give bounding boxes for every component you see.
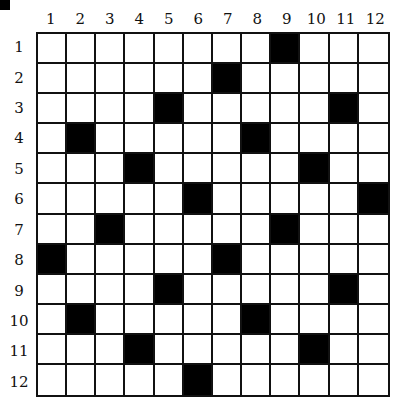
grid-cell[interactable] — [300, 275, 329, 305]
grid-cell[interactable] — [96, 64, 125, 94]
grid-cell[interactable] — [330, 64, 359, 94]
grid-cell[interactable] — [213, 184, 242, 214]
grid-cell[interactable] — [67, 335, 96, 365]
grid-cell[interactable] — [67, 184, 96, 214]
grid-cell[interactable] — [184, 305, 213, 335]
grid-cell[interactable] — [330, 335, 359, 365]
grid-cell[interactable] — [300, 94, 329, 124]
grid-cell[interactable] — [184, 154, 213, 184]
grid-cell[interactable] — [155, 365, 184, 395]
grid-cell[interactable] — [125, 64, 154, 94]
grid-cell[interactable] — [330, 365, 359, 395]
grid-cell[interactable] — [300, 34, 329, 64]
grid-cell[interactable] — [96, 365, 125, 395]
grid-cell[interactable] — [213, 154, 242, 184]
grid-cell[interactable] — [242, 335, 271, 365]
grid-cell[interactable] — [330, 34, 359, 64]
grid-cell[interactable] — [155, 64, 184, 94]
grid-cell[interactable] — [213, 94, 242, 124]
grid-cell[interactable] — [300, 215, 329, 245]
grid-cell[interactable] — [38, 275, 67, 305]
grid-cell[interactable] — [184, 124, 213, 154]
grid-cell[interactable] — [300, 184, 329, 214]
grid-cell[interactable] — [67, 365, 96, 395]
grid-cell[interactable] — [330, 305, 359, 335]
grid-cell[interactable] — [359, 34, 388, 64]
grid-cell[interactable] — [184, 94, 213, 124]
grid-cell[interactable] — [242, 215, 271, 245]
grid-cell[interactable] — [125, 365, 154, 395]
grid-cell[interactable] — [125, 215, 154, 245]
grid-cell[interactable] — [271, 64, 300, 94]
grid-cell[interactable] — [67, 215, 96, 245]
grid-cell[interactable] — [67, 34, 96, 64]
grid-cell[interactable] — [125, 94, 154, 124]
grid-cell[interactable] — [125, 34, 154, 64]
grid-cell[interactable] — [96, 245, 125, 275]
grid-cell[interactable] — [271, 184, 300, 214]
grid-cell[interactable] — [155, 335, 184, 365]
grid-cell[interactable] — [184, 275, 213, 305]
grid-cell[interactable] — [213, 365, 242, 395]
grid-cell[interactable] — [271, 245, 300, 275]
grid-cell[interactable] — [67, 64, 96, 94]
grid-cell[interactable] — [359, 215, 388, 245]
grid-cell[interactable] — [96, 184, 125, 214]
grid-cell[interactable] — [96, 275, 125, 305]
grid-cell[interactable] — [67, 154, 96, 184]
grid-cell[interactable] — [300, 245, 329, 275]
grid-cell[interactable] — [359, 335, 388, 365]
grid-cell[interactable] — [242, 184, 271, 214]
grid-cell[interactable] — [330, 184, 359, 214]
grid-cell[interactable] — [125, 275, 154, 305]
grid-cell[interactable] — [125, 184, 154, 214]
grid-cell[interactable] — [184, 64, 213, 94]
grid-cell[interactable] — [213, 305, 242, 335]
grid-cell[interactable] — [38, 335, 67, 365]
grid-cell[interactable] — [242, 275, 271, 305]
grid-cell[interactable] — [213, 34, 242, 64]
grid-cell[interactable] — [359, 124, 388, 154]
grid-cell[interactable] — [330, 245, 359, 275]
grid-cell[interactable] — [271, 275, 300, 305]
grid-cell[interactable] — [242, 154, 271, 184]
grid-cell[interactable] — [38, 305, 67, 335]
grid-cell[interactable] — [213, 215, 242, 245]
grid-cell[interactable] — [300, 124, 329, 154]
grid-cell[interactable] — [38, 215, 67, 245]
grid-cell[interactable] — [271, 94, 300, 124]
grid-cell[interactable] — [67, 94, 96, 124]
grid-cell[interactable] — [271, 305, 300, 335]
grid-cell[interactable] — [38, 365, 67, 395]
grid-cell[interactable] — [96, 305, 125, 335]
grid-cell[interactable] — [155, 215, 184, 245]
grid-cell[interactable] — [271, 124, 300, 154]
grid-cell[interactable] — [96, 34, 125, 64]
grid-cell[interactable] — [155, 245, 184, 275]
grid-cell[interactable] — [359, 245, 388, 275]
grid-cell[interactable] — [359, 275, 388, 305]
grid-cell[interactable] — [155, 34, 184, 64]
grid-cell[interactable] — [184, 215, 213, 245]
grid-cell[interactable] — [300, 365, 329, 395]
grid-cell[interactable] — [125, 124, 154, 154]
grid-cell[interactable] — [271, 154, 300, 184]
grid-cell[interactable] — [38, 184, 67, 214]
grid-cell[interactable] — [271, 365, 300, 395]
grid-cell[interactable] — [96, 124, 125, 154]
grid-cell[interactable] — [213, 124, 242, 154]
grid-cell[interactable] — [125, 245, 154, 275]
grid-cell[interactable] — [96, 154, 125, 184]
grid-cell[interactable] — [38, 34, 67, 64]
grid-cell[interactable] — [213, 275, 242, 305]
grid-cell[interactable] — [271, 335, 300, 365]
grid-cell[interactable] — [242, 34, 271, 64]
grid-cell[interactable] — [359, 305, 388, 335]
grid-cell[interactable] — [125, 305, 154, 335]
grid-cell[interactable] — [242, 365, 271, 395]
grid-cell[interactable] — [184, 245, 213, 275]
grid-cell[interactable] — [184, 34, 213, 64]
grid-cell[interactable] — [330, 124, 359, 154]
grid-cell[interactable] — [155, 184, 184, 214]
grid-cell[interactable] — [359, 64, 388, 94]
